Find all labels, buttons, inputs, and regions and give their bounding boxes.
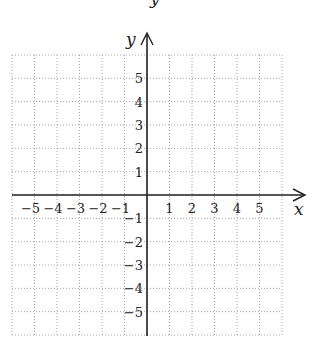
x-tick-label: 3	[210, 201, 218, 216]
x-tick-label: −2	[88, 201, 107, 216]
y-tick-label: −1	[124, 211, 143, 226]
x-tick-label: 2	[188, 201, 196, 216]
y-tick-label: −4	[124, 281, 143, 296]
y-tick-label: 2	[135, 141, 143, 156]
y-tick-label: −3	[124, 258, 143, 273]
x-tick-label: 4	[233, 201, 241, 216]
x-tick-label: −3	[66, 201, 85, 216]
y-tick-label: 5	[135, 71, 143, 86]
coordinate-plane: y x y −5−4−3−2−112345 54321−1−2−3−4−5	[0, 0, 322, 343]
y-tick-label: 3	[135, 118, 143, 133]
y-tick-label: −5	[124, 305, 143, 320]
y-tick-label: 1	[135, 165, 143, 180]
y-tick-label: 4	[135, 95, 143, 110]
top-partial-label: y	[149, 0, 160, 8]
x-axis-label: x	[294, 199, 304, 219]
y-axis-label: y	[125, 29, 136, 49]
x-tick-label: −5	[21, 201, 40, 216]
x-tick-label: 1	[165, 201, 173, 216]
x-tick-label: 5	[255, 201, 263, 216]
y-tick-label: −2	[124, 235, 143, 250]
x-tick-label: −4	[43, 201, 62, 216]
